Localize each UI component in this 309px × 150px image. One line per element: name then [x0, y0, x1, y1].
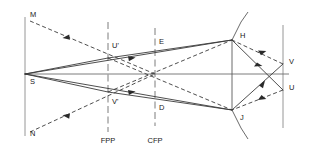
virtual-ray-n-to-center — [30, 74, 155, 132]
ray-s-to-j-lower — [25, 74, 232, 110]
label-common-focal-plane: CFP — [148, 136, 163, 145]
label-front-focal-plane: FPP — [101, 136, 116, 145]
virtual-ray-m-to-center — [30, 21, 155, 74]
ray-s-to-h-upper — [25, 40, 232, 74]
label-point-M: M — [30, 10, 36, 19]
optics-ray-diagram: M N S U' V' E D H J V U FPP CFP — [0, 0, 309, 150]
label-point-U: U — [289, 83, 294, 92]
diagram-canvas: M N S U' V' E D H J V U FPP CFP — [0, 0, 309, 150]
upper-mirror-shape — [232, 12, 248, 74]
lower-mirror-shape — [232, 74, 248, 139]
ray-j-to-v — [232, 64, 283, 110]
label-point-S: S — [30, 77, 35, 86]
label-point-N: N — [30, 129, 35, 138]
label-point-H: H — [240, 31, 245, 40]
virtual-ray-u-to-j — [232, 90, 283, 110]
label-point-V-prime: V' — [112, 97, 119, 106]
ray-h-to-u — [232, 40, 283, 90]
label-point-J: J — [240, 113, 244, 122]
label-point-V: V — [289, 57, 294, 66]
label-point-D: D — [159, 103, 165, 112]
label-point-E: E — [159, 37, 164, 46]
label-point-U-prime: U' — [112, 41, 119, 50]
virtual-ray-v-to-h — [232, 40, 283, 64]
